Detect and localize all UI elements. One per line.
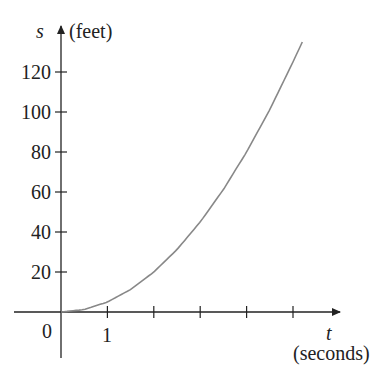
y-tick-label: 120 bbox=[21, 61, 51, 83]
x-tick-label-1: 1 bbox=[102, 324, 112, 346]
y-axis-symbol: s bbox=[36, 20, 44, 42]
origin-label: 0 bbox=[42, 320, 52, 342]
chart: 20406080100120 s (feet) t (seconds) 0 1 bbox=[0, 0, 372, 371]
data-curve bbox=[61, 42, 302, 312]
y-tick-label: 40 bbox=[31, 221, 51, 243]
y-tick-label: 100 bbox=[21, 101, 51, 123]
y-tick-label: 20 bbox=[31, 261, 51, 283]
x-axis-symbol: t bbox=[326, 322, 332, 344]
y-ticks: 20406080100120 bbox=[21, 61, 67, 283]
y-axis-unit: (feet) bbox=[69, 20, 112, 43]
y-tick-label: 60 bbox=[31, 181, 51, 203]
y-tick-label: 80 bbox=[31, 141, 51, 163]
x-axis-unit: (seconds) bbox=[293, 342, 370, 365]
